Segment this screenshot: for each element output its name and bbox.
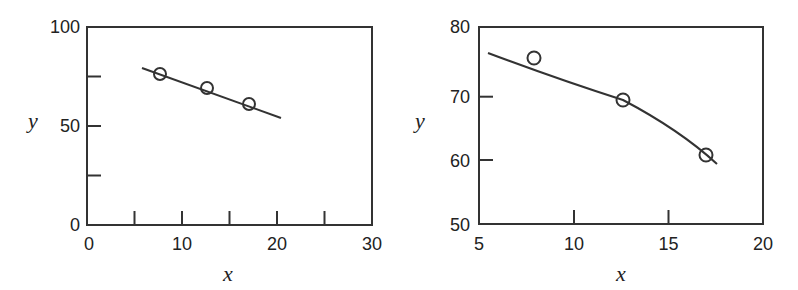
right-y-axis-label: y xyxy=(413,108,425,133)
left-plot-frame xyxy=(87,27,372,225)
right-data-point xyxy=(528,52,541,65)
right-chart: 80 70 60 50 5 10 15 20 y x xyxy=(413,17,773,286)
right-xtick-label: 20 xyxy=(753,234,773,254)
left-xtick-label: 20 xyxy=(267,234,287,254)
right-xtick-label: 15 xyxy=(658,234,678,254)
left-chart: 100 50 0 0 10 20 30 y x xyxy=(26,17,382,286)
right-ytick-label: 80 xyxy=(450,17,470,37)
right-fit-curve xyxy=(488,53,717,164)
figure: 100 50 0 0 10 20 30 y x 80 70 60 50 5 10… xyxy=(0,0,798,290)
right-plot-frame xyxy=(479,27,763,224)
left-x-axis-label: x xyxy=(222,261,233,286)
right-xtick-label: 5 xyxy=(474,234,484,254)
right-xtick-label: 10 xyxy=(564,234,584,254)
left-xtick-label: 30 xyxy=(362,234,382,254)
right-x-axis-label: x xyxy=(615,261,626,286)
left-ytick-label: 0 xyxy=(70,215,80,235)
right-ytick-label: 50 xyxy=(450,215,470,235)
left-ytick-label: 100 xyxy=(50,17,80,37)
left-xtick-label: 0 xyxy=(84,234,94,254)
right-ytick-label: 60 xyxy=(450,151,470,171)
left-ytick-label: 50 xyxy=(60,116,80,136)
left-xtick-label: 10 xyxy=(172,234,192,254)
left-y-axis-label: y xyxy=(26,108,38,133)
right-ytick-label: 70 xyxy=(450,87,470,107)
